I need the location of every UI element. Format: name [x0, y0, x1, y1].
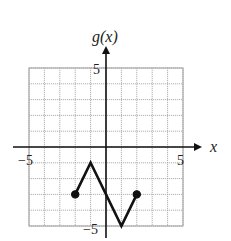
- graph-canvas: g(x) x −5 5 5 −5: [0, 0, 231, 241]
- y-min-tick-label: −5: [83, 222, 98, 237]
- x-max-tick-label: 5: [177, 153, 184, 168]
- y-axis-label: g(x): [92, 28, 118, 46]
- endpoint-dot: [72, 191, 79, 198]
- endpoint-dot: [133, 191, 140, 198]
- x-axis-label: x: [209, 138, 217, 155]
- y-max-tick-label: 5: [93, 62, 100, 77]
- x-min-tick-label: −5: [18, 153, 33, 168]
